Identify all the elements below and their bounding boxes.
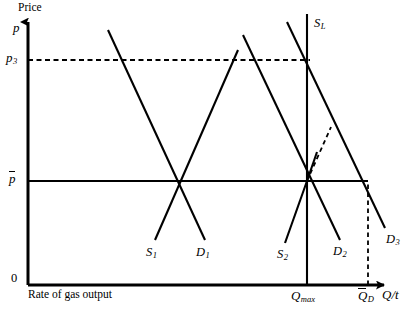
curve-S2 — [285, 181, 307, 243]
curve-label-S2-sub: 2 — [283, 252, 288, 262]
quantity-tick-qmax: Qmax — [291, 289, 315, 303]
price-tick-pbar: p — [9, 172, 16, 185]
curve-label-S1: S1 — [146, 246, 157, 259]
curve-label-S2: S2 — [277, 248, 288, 261]
quantity-tick-qmax-base: Q — [291, 288, 300, 303]
curve-label-D2-sub: 2 — [342, 249, 347, 259]
y-axis-title: Price — [18, 2, 42, 14]
curve-label-SL-sub: L — [320, 21, 325, 31]
curve-label-D3: D3 — [386, 233, 400, 246]
x-axis-symbol: Q/t — [382, 288, 399, 301]
curve-label-D3-base: D — [386, 232, 395, 246]
curve-label-SL: SL — [314, 17, 325, 30]
quantity-tick-qdbar-sub: D — [367, 294, 374, 304]
x-axis-symbol-q: Q — [382, 287, 391, 302]
curve-S2-upper — [307, 152, 317, 181]
quantity-tick-qdbar: QD — [358, 289, 374, 303]
curve-D1 — [108, 30, 205, 240]
curve-label-D2: D2 — [333, 245, 347, 258]
quantity-tick-qdbar-base: Q — [358, 289, 367, 302]
curve-label-D2-base: D — [333, 244, 342, 258]
curve-D2 — [243, 35, 340, 240]
curve-label-D1-base: D — [196, 245, 205, 259]
y-axis-symbol: p — [13, 21, 20, 34]
gas-market-diagram: Price p Rate of gas output Q/t 0 p3 p Qm… — [0, 0, 410, 309]
x-axis-title: Rate of gas output — [28, 289, 112, 301]
quantity-tick-qmax-sub: max — [300, 294, 315, 304]
dashed-expansion-segment — [307, 127, 331, 181]
price-tick-pbar-base: p — [9, 172, 16, 185]
curve-label-D1: D1 — [196, 246, 210, 259]
curve-label-D3-sub: 3 — [395, 237, 400, 247]
curve-S1 — [155, 50, 238, 240]
diagram-canvas — [0, 0, 410, 309]
price-tick-p3-base: p — [6, 50, 13, 65]
price-tick-p3-sub: 3 — [13, 56, 18, 66]
origin-label: 0 — [11, 272, 17, 285]
curve-label-S1-sub: 1 — [152, 250, 157, 260]
curve-label-D1-sub: 1 — [205, 250, 210, 260]
price-tick-p3: p3 — [6, 51, 17, 65]
x-axis-symbol-t: t — [395, 287, 399, 302]
